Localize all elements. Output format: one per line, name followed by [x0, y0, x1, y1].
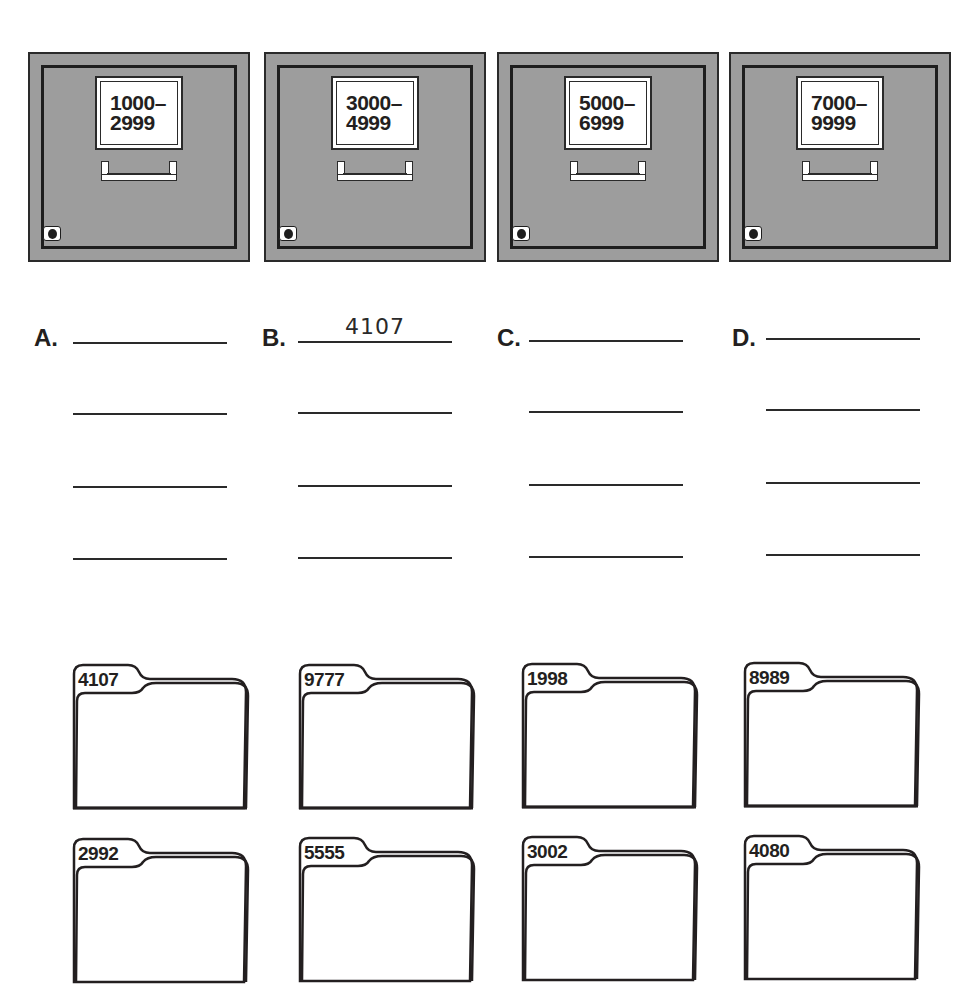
folder-number: 9777	[304, 669, 344, 691]
cabinet-range-end: 2999	[110, 113, 177, 133]
filing-cabinet-b: 3000– 4999	[264, 52, 486, 262]
lock-icon	[744, 226, 762, 241]
lock-icon	[43, 226, 61, 241]
file-folder[interactable]: 8989	[741, 660, 921, 808]
file-folder[interactable]: 9777	[296, 662, 476, 810]
filing-cabinet-d: 7000– 9999	[729, 52, 951, 262]
answer-line[interactable]	[766, 482, 920, 484]
answer-line[interactable]	[529, 484, 683, 486]
file-folder[interactable]: 4107	[70, 662, 250, 810]
folder-number: 4107	[78, 669, 118, 691]
drawer-handle-icon	[570, 159, 646, 181]
cabinet-range-start: 3000–	[346, 93, 413, 113]
answer-letter: D.	[732, 324, 756, 352]
file-folder[interactable]: 3002	[519, 834, 699, 982]
drawer-handle-icon	[101, 159, 177, 181]
drawer-handle-icon	[337, 159, 413, 181]
cabinet-label: 1000– 2999	[95, 76, 183, 150]
answer-line[interactable]	[298, 557, 452, 559]
cabinet-range-start: 5000–	[579, 93, 646, 113]
cabinet-label: 5000– 6999	[564, 76, 652, 150]
filing-cabinet-a: 1000– 2999	[28, 52, 250, 262]
filing-cabinet-c: 5000– 6999	[497, 52, 719, 262]
answer-line[interactable]	[529, 340, 683, 342]
answer-line[interactable]	[766, 409, 920, 411]
answer-line[interactable]	[529, 411, 683, 413]
answer-line[interactable]	[73, 342, 227, 344]
answer-letter: C.	[497, 324, 521, 352]
answer-letter: B.	[262, 324, 286, 352]
folder-number: 5555	[304, 842, 344, 864]
folder-number: 4080	[749, 840, 789, 862]
answer-text-handwritten: 4107	[298, 314, 452, 339]
answer-line[interactable]	[298, 412, 452, 414]
answer-line[interactable]	[766, 554, 920, 556]
answer-letter: A.	[34, 324, 58, 352]
folder-number: 2992	[78, 843, 118, 865]
file-folder[interactable]: 1998	[519, 661, 699, 809]
answer-line[interactable]: 4107	[298, 341, 452, 343]
file-folder[interactable]: 2992	[70, 836, 250, 984]
cabinet-range-end: 9999	[811, 113, 878, 133]
lock-icon	[512, 226, 530, 241]
folder-number: 1998	[527, 668, 567, 690]
lock-icon	[279, 226, 297, 241]
cabinet-label: 3000– 4999	[331, 76, 419, 150]
cabinet-range-end: 6999	[579, 113, 646, 133]
answer-line[interactable]	[73, 413, 227, 415]
folder-number: 8989	[749, 667, 789, 689]
answer-line[interactable]	[73, 486, 227, 488]
answer-line[interactable]	[73, 558, 227, 560]
drawer-handle-icon	[802, 159, 878, 181]
cabinet-label: 7000– 9999	[796, 76, 884, 150]
file-folder[interactable]: 4080	[741, 833, 921, 981]
cabinet-range-end: 4999	[346, 113, 413, 133]
file-folder[interactable]: 5555	[296, 835, 476, 983]
answer-line[interactable]	[298, 485, 452, 487]
cabinet-range-start: 7000–	[811, 93, 878, 113]
answer-line[interactable]	[766, 338, 920, 340]
folder-number: 3002	[527, 841, 567, 863]
answer-line[interactable]	[529, 556, 683, 558]
cabinet-range-start: 1000–	[110, 93, 177, 113]
